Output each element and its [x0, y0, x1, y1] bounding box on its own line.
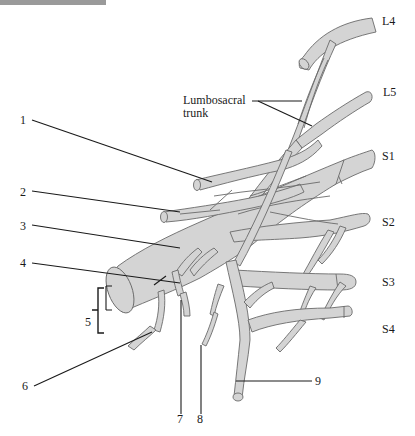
label-7: 7 [177, 412, 183, 426]
l4-root [288, 18, 376, 152]
label-5: 5 [85, 315, 91, 329]
label-s3: S3 [382, 275, 395, 289]
nerve-structures [101, 18, 376, 401]
label-4: 4 [20, 256, 26, 270]
label-2: 2 [20, 185, 26, 199]
label-5-bracket [92, 288, 104, 333]
label-s4: S4 [382, 322, 395, 336]
label-trunk: trunk [183, 106, 208, 120]
label-lumbosacral: Lumbosacral [183, 93, 246, 107]
label-l5: L5 [383, 85, 396, 99]
label-s2: S2 [382, 215, 395, 229]
label-3: 3 [20, 219, 26, 233]
label-1: 1 [20, 113, 26, 127]
label-6: 6 [22, 379, 28, 393]
sacral-plexus-diagram: L4 L5 S1 S2 S3 S4 Lumbosacral trunk 1 2 … [0, 0, 415, 436]
label-9: 9 [315, 374, 321, 388]
label-s1: S1 [382, 149, 395, 163]
label-8: 8 [197, 412, 203, 426]
label-l4: L4 [382, 14, 395, 28]
